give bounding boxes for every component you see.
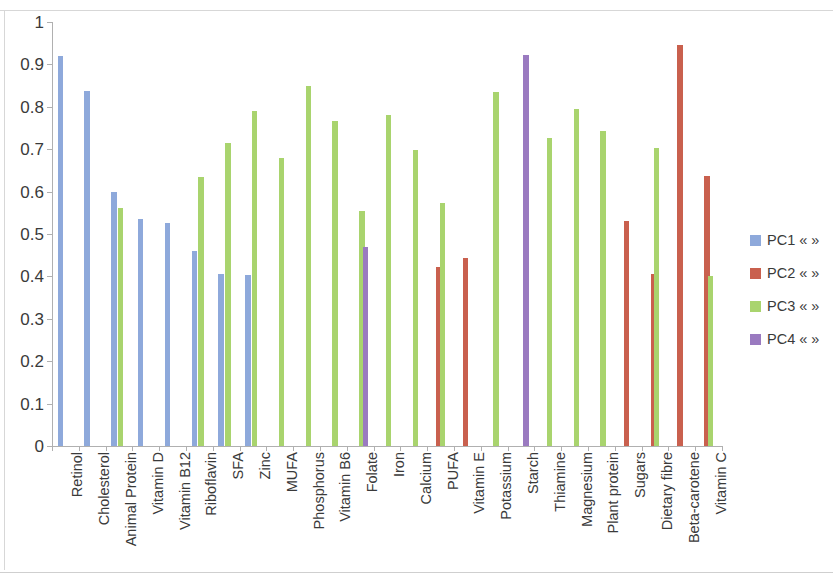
bar xyxy=(192,251,198,446)
bar xyxy=(363,247,369,446)
legend-item-label: PC3 « » xyxy=(767,299,819,314)
bar xyxy=(118,208,124,446)
x-axis-tick-mark xyxy=(454,446,455,451)
y-axis-tick-label: 0.2 xyxy=(20,353,44,370)
x-axis-tick-mark xyxy=(266,446,267,451)
legend-item-label: PC2 « » xyxy=(767,266,819,281)
x-axis-category-label: Plant protein xyxy=(606,452,621,533)
bar xyxy=(386,115,392,446)
x-axis-category-label: PUFA xyxy=(446,452,461,490)
x-axis-tick-mark xyxy=(722,446,723,451)
x-axis-category-label: Zinc xyxy=(258,452,273,479)
bar xyxy=(306,86,312,446)
plot-area: 00.10.20.30.40.50.60.70.80.91 xyxy=(52,22,722,446)
legend-color-swatch-icon xyxy=(750,334,761,345)
x-axis-tick-mark xyxy=(293,446,294,451)
y-axis-tick-label: 0.7 xyxy=(20,141,44,158)
bar xyxy=(624,221,630,446)
bar xyxy=(279,158,285,446)
x-axis-tick-mark xyxy=(481,446,482,451)
bar xyxy=(523,55,529,446)
x-axis-tick-mark xyxy=(347,446,348,451)
x-axis-tick-mark xyxy=(561,446,562,451)
x-axis-tick-mark xyxy=(52,446,53,451)
x-axis-category-label: Riboflavin xyxy=(204,452,219,516)
x-axis-category-label: Vitamin D xyxy=(151,452,166,515)
bar xyxy=(198,177,204,446)
bar xyxy=(165,223,171,446)
chart-screenshot: 00.10.20.30.40.50.60.70.80.91 RetinolCho… xyxy=(0,0,833,579)
legend-color-swatch-icon xyxy=(750,301,761,312)
bar xyxy=(252,111,258,446)
y-axis-tick-mark xyxy=(47,22,52,23)
x-axis-category-label: Phosphorus xyxy=(312,452,327,529)
y-axis-tick-label: 0.3 xyxy=(20,310,44,327)
x-axis-category-label: SFA xyxy=(231,452,246,479)
y-axis-tick-mark xyxy=(47,192,52,193)
legend-item-label: PC1 « » xyxy=(767,233,819,248)
y-axis-tick-mark xyxy=(47,149,52,150)
legend-item[interactable]: PC3 « » xyxy=(750,290,833,323)
y-axis-tick-label: 0.1 xyxy=(20,395,44,412)
y-axis-tick-mark xyxy=(47,276,52,277)
x-axis-category-label: Vitamin E xyxy=(472,452,487,514)
x-axis-category-label: Cholesterol xyxy=(97,452,112,525)
bar xyxy=(493,92,499,446)
x-axis-category-label: MUFA xyxy=(285,452,300,492)
x-axis-tick-mark xyxy=(400,446,401,451)
legend-item[interactable]: PC2 « » xyxy=(750,257,833,290)
x-axis-category-label: Starch xyxy=(526,452,541,494)
y-axis-tick-mark xyxy=(47,319,52,320)
y-axis-tick-label: 0.6 xyxy=(20,183,44,200)
bar xyxy=(574,109,580,447)
x-axis-tick-mark xyxy=(106,446,107,451)
x-axis-tick-mark xyxy=(668,446,669,451)
bar xyxy=(463,258,469,446)
y-axis-tick-label: 0.4 xyxy=(20,268,44,285)
x-axis-line xyxy=(52,446,722,447)
y-axis-tick-label: 0.8 xyxy=(20,98,44,115)
bar xyxy=(245,275,251,446)
y-axis-line xyxy=(52,22,53,446)
x-axis-tick-mark xyxy=(534,446,535,451)
bar xyxy=(111,192,117,446)
bar xyxy=(677,45,683,446)
x-axis-category-label: Magnesium xyxy=(580,452,595,527)
x-axis-category-label: Animal Protein xyxy=(124,452,139,546)
bar xyxy=(225,143,231,446)
x-axis-tick-mark xyxy=(374,446,375,451)
bar xyxy=(440,203,446,446)
y-axis-tick-label: 0 xyxy=(35,438,44,455)
x-axis-category-label: Vitamin C xyxy=(714,452,729,515)
chart-legend: PC1 « »PC2 « »PC3 « »PC4 « » xyxy=(750,224,833,356)
x-axis-category-label: Dietary fibre xyxy=(660,452,675,530)
x-axis-tick-mark xyxy=(186,446,187,451)
bar xyxy=(58,56,64,446)
x-axis-category-label: Retinol xyxy=(70,452,85,497)
y-axis-tick-mark xyxy=(47,64,52,65)
legend-item[interactable]: PC1 « » xyxy=(750,224,833,257)
x-axis-tick-mark xyxy=(159,446,160,451)
bar xyxy=(413,150,419,446)
x-axis-tick-mark xyxy=(508,446,509,451)
x-axis-tick-mark xyxy=(427,446,428,451)
y-axis-tick-mark xyxy=(47,234,52,235)
legend-color-swatch-icon xyxy=(750,268,761,279)
x-axis-category-label: Folate xyxy=(365,452,380,492)
x-axis-category-label: Vitamin B6 xyxy=(338,452,353,522)
y-axis-tick-label: 0.5 xyxy=(20,226,44,243)
y-axis-tick-label: 1 xyxy=(35,14,44,31)
legend-item[interactable]: PC4 « » xyxy=(750,323,833,356)
x-axis-category-label: Sugars xyxy=(633,452,648,498)
x-axis-category-label: Iron xyxy=(392,452,407,477)
bar xyxy=(600,131,606,446)
bar xyxy=(218,274,224,446)
y-axis-tick-label: 0.9 xyxy=(20,56,44,73)
x-axis-tick-mark xyxy=(132,446,133,451)
bar xyxy=(654,148,660,446)
x-axis-category-label: Potassium xyxy=(499,452,514,520)
x-axis-tick-mark xyxy=(79,446,80,451)
y-axis-tick-mark xyxy=(47,107,52,108)
x-axis-tick-mark xyxy=(240,446,241,451)
x-axis-category-label: Beta-carotene xyxy=(687,452,702,543)
